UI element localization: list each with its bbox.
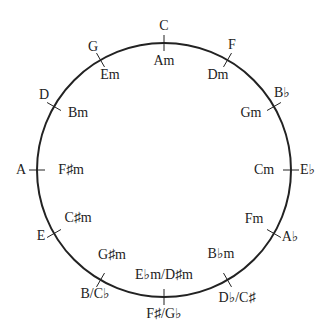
major-key-a-flat: A♭ xyxy=(282,229,299,244)
major-key-f: F xyxy=(228,37,236,52)
tick-mark xyxy=(224,273,232,287)
minor-key-am: Am xyxy=(154,53,175,68)
major-key-a: A xyxy=(16,162,27,177)
minor-key-fm: Fm xyxy=(245,211,264,226)
tick-mark xyxy=(47,230,61,238)
minor-key-e-flat-m-d-sharp-m: E♭m/D♯m xyxy=(135,267,193,282)
tick-mark xyxy=(97,53,105,67)
tick-mark xyxy=(47,103,61,111)
major-key-b-c-flat: B/C♭ xyxy=(80,286,109,301)
minor-key-cm: Cm xyxy=(254,162,274,177)
major-key-f-sharp-g-flat: F♯/G♭ xyxy=(146,306,181,321)
minor-key-b-flat-m: B♭m xyxy=(208,246,235,261)
major-key-c: C xyxy=(159,18,168,33)
minor-key-dm: Dm xyxy=(208,67,229,82)
tick-mark xyxy=(97,273,105,287)
major-key-d: D xyxy=(39,87,49,102)
tick-mark xyxy=(224,53,232,67)
major-key-d-flat-c-sharp: D♭/C♯ xyxy=(219,290,257,305)
major-key-g: G xyxy=(88,39,98,54)
major-key-b-flat: B♭ xyxy=(274,85,290,100)
minor-key-c-sharp-m: C♯m xyxy=(64,210,91,225)
tick-mark xyxy=(267,230,281,238)
circle-of-fifths-diagram: C Am F Dm B♭ Gm E♭ Cm A♭ Fm D♭/C♯ B♭m F♯… xyxy=(0,0,334,335)
minor-key-bm: Bm xyxy=(68,105,88,120)
minor-key-g-sharp-m: G♯m xyxy=(98,247,126,262)
minor-key-gm: Gm xyxy=(241,105,262,120)
major-key-e: E xyxy=(37,228,46,243)
minor-key-em: Em xyxy=(100,67,120,82)
tick-mark xyxy=(267,103,281,111)
major-key-e-flat: E♭ xyxy=(300,162,315,177)
minor-key-f-sharp-m: F♯m xyxy=(58,162,84,177)
